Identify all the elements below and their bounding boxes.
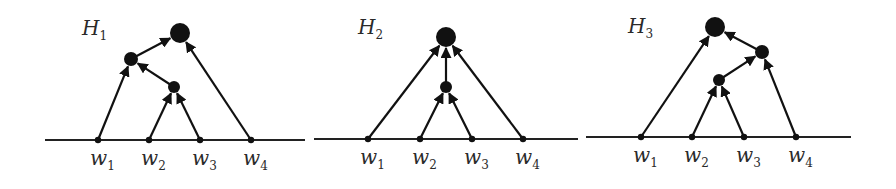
node-root <box>170 23 190 43</box>
node-root <box>705 17 725 37</box>
leaf-point-w3 <box>197 137 203 143</box>
edge-w3-to-n23 <box>722 86 744 137</box>
leaf-label-w1: w1 <box>360 145 385 172</box>
leaf-label-w2: w2 <box>141 146 166 173</box>
leaf-point-w2 <box>689 134 695 140</box>
leaf-point-w2 <box>146 137 152 143</box>
edge-n23-to-n234 <box>719 56 755 80</box>
leaf-label-w1: w1 <box>90 146 115 173</box>
node-n23 <box>713 74 725 86</box>
panel-title-h3: H3 <box>627 14 653 41</box>
node-n12_34 <box>124 52 138 66</box>
panel-h3: w1w2w3w4H3 <box>586 14 851 170</box>
edge-w2-to-n23 <box>149 93 171 140</box>
leaf-label-w4: w4 <box>243 146 268 173</box>
leaf-label-w1: w1 <box>633 143 658 170</box>
leaf-point-w4 <box>248 137 254 143</box>
edge-w1-to-n12_34 <box>98 66 128 140</box>
leaf-point-w1 <box>365 136 371 142</box>
panel-h2: w1w2w3w4H2 <box>314 15 578 172</box>
leaf-label-w3: w3 <box>192 146 217 173</box>
leaf-label-w3: w3 <box>736 143 761 170</box>
node-n234 <box>755 45 769 59</box>
edge-w2-to-n23 <box>420 93 443 139</box>
leaf-label-w3: w3 <box>464 145 489 172</box>
leaf-point-w2 <box>417 136 423 142</box>
edge-n23-to-n12_34 <box>138 63 174 87</box>
hierarchy-diagram: w1w2w3w4H1w1w2w3w4H2w1w2w3w4H3 <box>0 0 896 189</box>
leaf-point-w4 <box>520 136 526 142</box>
node-n23 <box>440 81 452 93</box>
leaf-label-w4: w4 <box>788 143 813 170</box>
leaf-point-w3 <box>469 136 475 142</box>
panel-title-h1: H1 <box>81 16 107 43</box>
leaf-label-w2: w2 <box>412 145 437 172</box>
edge-w3-to-n23 <box>449 93 472 139</box>
leaf-point-w4 <box>793 134 799 140</box>
node-n23 <box>168 81 180 93</box>
leaf-point-w3 <box>741 134 747 140</box>
edge-w4-to-n234 <box>765 59 796 137</box>
edge-w2-to-n23 <box>692 86 716 137</box>
panel-h1: w1w2w3w4H1 <box>45 16 305 173</box>
leaf-point-w1 <box>638 134 644 140</box>
edge-w1-to-root <box>368 46 439 139</box>
leaf-point-w1 <box>95 137 101 143</box>
node-root <box>436 27 456 47</box>
leaf-label-w4: w4 <box>515 145 540 172</box>
leaf-label-w2: w2 <box>684 143 709 170</box>
edge-w4-to-root <box>453 46 523 139</box>
edge-w3-to-n23 <box>177 93 200 140</box>
edge-w4-to-root <box>186 42 251 140</box>
panel-title-h2: H2 <box>357 15 383 42</box>
